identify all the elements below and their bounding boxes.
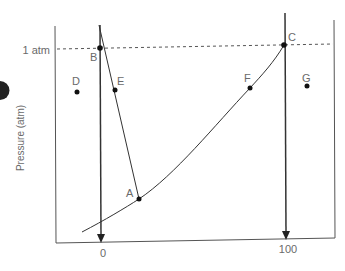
phase-diagram: A B C D E F G 1 atm Pressure (atm) 0 100	[0, 0, 345, 271]
melting-curve	[99, 25, 139, 199]
edge-marker	[0, 81, 10, 100]
point-e	[113, 88, 118, 93]
arrow-at-0-line	[100, 25, 101, 236]
point-d	[75, 90, 80, 95]
point-d-label: D	[72, 75, 80, 87]
point-g	[305, 84, 310, 89]
point-c	[281, 42, 287, 48]
point-c-label: C	[288, 31, 296, 43]
point-g-label: G	[302, 72, 311, 84]
x-tick-0: 0	[100, 247, 106, 259]
point-b-label: B	[90, 51, 97, 63]
vapor-pressure-curve	[82, 45, 284, 232]
right-border-line	[334, 20, 335, 238]
x-tick-100: 100	[279, 243, 297, 255]
point-a-label: A	[126, 187, 134, 199]
one-atm-label: 1 atm	[22, 44, 50, 56]
point-f-label: F	[244, 72, 251, 84]
y-axis-line	[55, 26, 56, 243]
point-b	[97, 45, 103, 51]
point-a	[137, 197, 142, 202]
point-e-label: E	[117, 75, 124, 87]
point-f	[248, 86, 253, 91]
y-axis-title: Pressure (atm)	[15, 105, 26, 171]
